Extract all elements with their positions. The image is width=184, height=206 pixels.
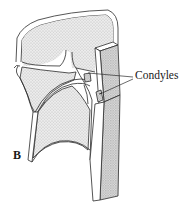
condyles-label: Condyles (135, 69, 178, 81)
panel-letter: B (13, 148, 21, 163)
lower-jaw-strip (90, 95, 120, 201)
anatomical-cutaway-drawing (0, 0, 184, 206)
